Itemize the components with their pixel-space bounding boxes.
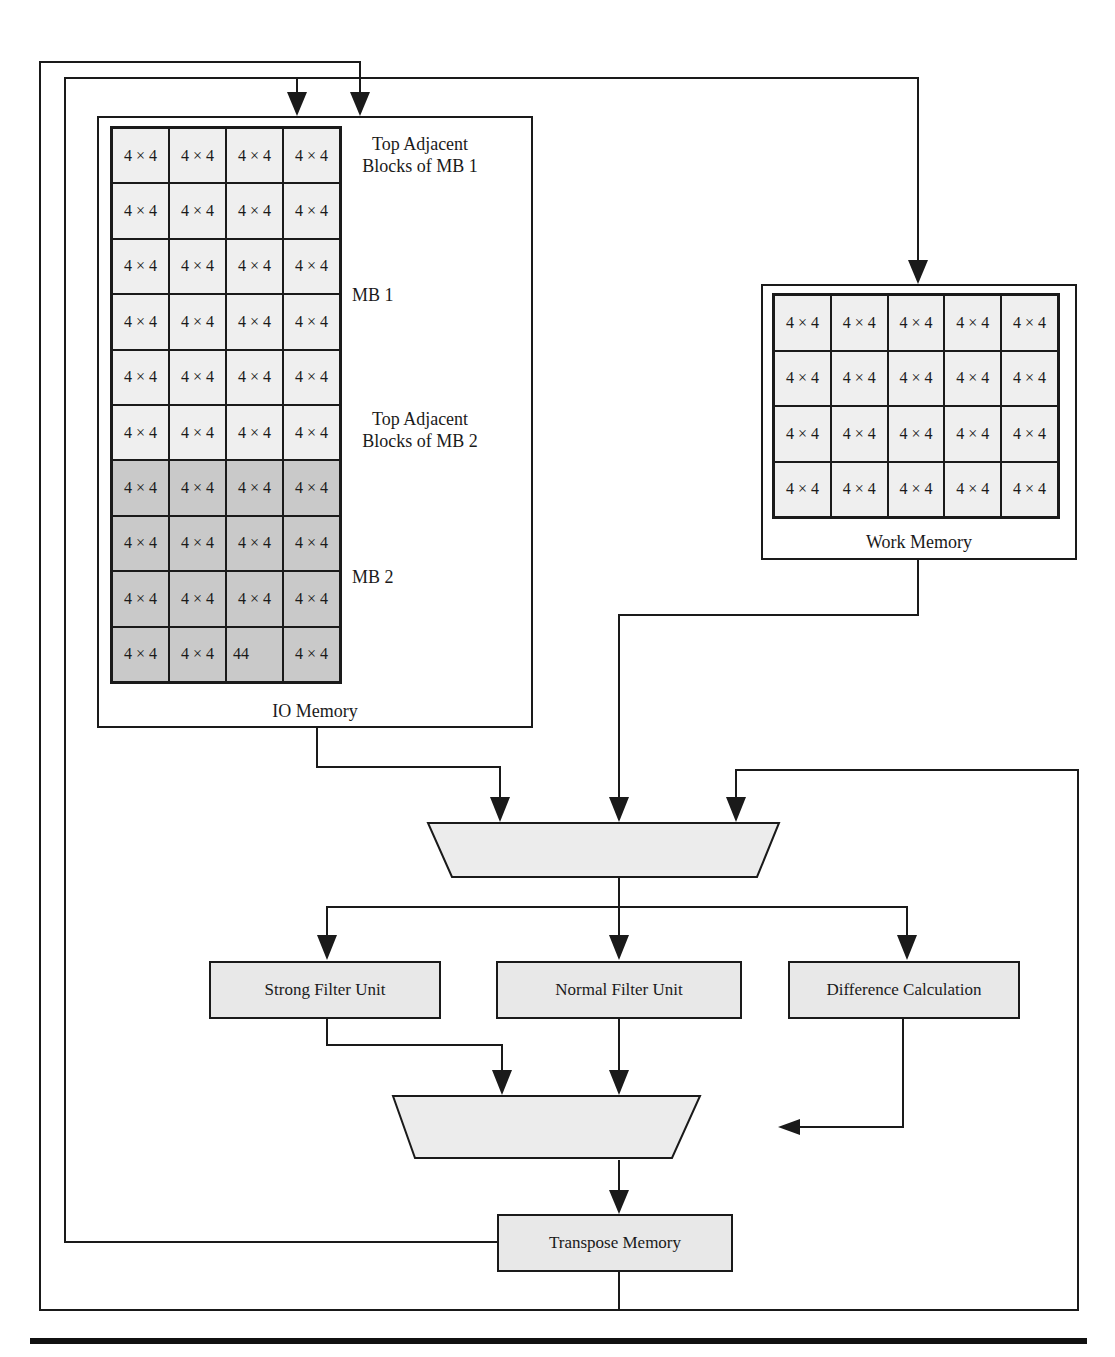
io-memory-block: 4 × 4: [226, 183, 283, 238]
top-adjacent-mb2-label: Top Adjacent Blocks of MB 2: [340, 408, 500, 452]
io-memory-block: 4 × 4: [112, 128, 169, 183]
io-memory-block: 4 × 4: [169, 128, 226, 183]
io-memory-block: 4 × 4: [226, 350, 283, 405]
io-memory-block: 4 × 4: [283, 460, 340, 515]
work-memory-block: 4 × 4: [1001, 406, 1058, 462]
work-to-mux-wire: [619, 560, 918, 805]
top-adjacent-mb1-line2: Blocks of MB 1: [340, 155, 500, 177]
transpose-memory-unit: Transpose Memory: [497, 1214, 733, 1272]
work-memory-block: 4 × 4: [774, 295, 831, 351]
io-memory-block: 4 × 4: [169, 405, 226, 460]
work-memory-block: 4 × 4: [831, 406, 888, 462]
work-memory-grid: 4 × 44 × 44 × 44 × 44 × 44 × 44 × 44 × 4…: [772, 293, 1060, 519]
work-memory-block: 4 × 4: [831, 351, 888, 407]
io-memory-block: 4 × 4: [169, 516, 226, 571]
work-memory-block: 4 × 4: [888, 351, 945, 407]
io-to-mux-wire: [317, 727, 500, 805]
io-memory-block: 4 × 4: [169, 350, 226, 405]
top-adjacent-mb1-line1: Top Adjacent: [340, 133, 500, 155]
io-memory-block: 4 × 4: [226, 294, 283, 349]
io-memory-block: 4 × 4: [283, 516, 340, 571]
io-memory-block: 4 × 4: [226, 405, 283, 460]
io-memory-grid: 4 × 44 × 44 × 44 × 44 × 44 × 44 × 44 × 4…: [110, 126, 342, 684]
work-memory-block: 4 × 4: [774, 406, 831, 462]
io-memory-title: IO Memory: [97, 700, 533, 722]
io-memory-block: 4 × 4: [283, 627, 340, 682]
io-memory-block: 4 × 4: [283, 350, 340, 405]
io-memory-block: 4 × 4: [226, 516, 283, 571]
io-memory-block: 4 × 4: [226, 128, 283, 183]
top-adjacent-mb2-line1: Top Adjacent: [340, 408, 500, 430]
work-memory-block: 4 × 4: [944, 351, 1001, 407]
io-memory-block: 4 × 4: [169, 239, 226, 294]
mux-1: [428, 823, 779, 877]
work-memory-block: 4 × 4: [888, 406, 945, 462]
bottom-rule: [30, 1338, 1087, 1344]
mb1-label: MB 1: [352, 284, 394, 306]
io-memory-block: 4 × 4: [169, 294, 226, 349]
work-memory-block: 4 × 4: [831, 295, 888, 351]
work-memory-block: 4 × 4: [1001, 295, 1058, 351]
io-memory-block: 4 × 4: [283, 405, 340, 460]
io-memory-block: 4 × 4: [112, 460, 169, 515]
io-memory-block: 4 × 4: [112, 183, 169, 238]
io-memory-block: 4 × 4: [283, 571, 340, 626]
difference-calculation-unit: Difference Calculation: [788, 961, 1020, 1019]
io-memory-block: 4 × 4: [226, 571, 283, 626]
io-memory-block: 4 × 4: [112, 239, 169, 294]
work-memory-block: 4 × 4: [774, 462, 831, 518]
io-memory-block: 4 × 4: [112, 516, 169, 571]
io-memory-block: 4 × 4: [169, 183, 226, 238]
io-memory-block: 4 × 4: [283, 294, 340, 349]
work-memory-block: 4 × 4: [1001, 462, 1058, 518]
io-memory-block: 4 × 4: [226, 460, 283, 515]
io-memory-block: 4 × 4: [169, 627, 226, 682]
normal-filter-unit: Normal Filter Unit: [496, 961, 742, 1019]
work-memory-block: 4 × 4: [1001, 351, 1058, 407]
io-memory-block: 4 × 4: [112, 294, 169, 349]
io-memory-block: 4 × 4: [283, 183, 340, 238]
work-memory-block: 4 × 4: [944, 406, 1001, 462]
work-memory-block: 4 × 4: [888, 295, 945, 351]
work-memory-block: 4 × 4: [944, 295, 1001, 351]
io-memory-block: 4 × 4: [112, 627, 169, 682]
top-adjacent-mb1-label: Top Adjacent Blocks of MB 1: [340, 133, 500, 177]
work-memory-block: 4 × 4: [888, 462, 945, 518]
io-memory-block: 4 × 4: [112, 350, 169, 405]
io-memory-block: 4 × 4: [169, 571, 226, 626]
io-memory-block: 4 × 4: [226, 239, 283, 294]
work-memory-block: 4 × 4: [774, 351, 831, 407]
top-adjacent-mb2-line2: Blocks of MB 2: [340, 430, 500, 452]
work-memory-block: 4 × 4: [831, 462, 888, 518]
io-memory-block: 44: [226, 627, 283, 682]
io-memory-block: 4 × 4: [112, 405, 169, 460]
io-memory-block: 4 × 4: [283, 128, 340, 183]
io-memory-block: 4 × 4: [283, 239, 340, 294]
strong-filter-unit: Strong Filter Unit: [209, 961, 441, 1019]
mb2-label: MB 2: [352, 566, 394, 588]
work-memory-block: 4 × 4: [944, 462, 1001, 518]
mux-2: [393, 1096, 700, 1158]
io-memory-block: 4 × 4: [112, 571, 169, 626]
io-memory-block: 4 × 4: [169, 460, 226, 515]
work-memory-title: Work Memory: [761, 531, 1077, 553]
